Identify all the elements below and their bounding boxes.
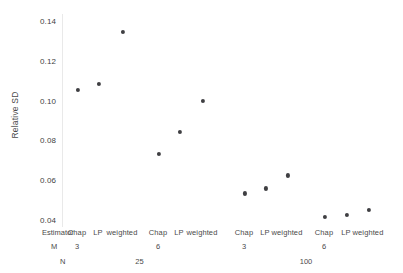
y-axis-tick-0-14: 0.14: [26, 17, 60, 26]
x-axis-estimator-label: Chap: [68, 228, 86, 237]
data-point: [76, 88, 80, 92]
x-axis-estimator-label: weighted: [272, 228, 303, 237]
x-axis-estimator-label: LP: [174, 228, 183, 237]
data-point: [323, 215, 327, 219]
data-point: [286, 173, 290, 177]
y-axis-title: Relative SD: [4, 0, 26, 230]
x-axis-n-label: 100: [300, 257, 313, 266]
x-axis-row-estimator: Estimator ChapLPweightedChapLPweightedCh…: [0, 228, 403, 241]
x-axis-estimator-label: LP: [341, 228, 350, 237]
x-axis-estimator-label: weighted: [107, 228, 138, 237]
x-axis-estimator-label: weighted: [353, 228, 384, 237]
y-axis-tick-0-06: 0.06: [26, 176, 60, 185]
y-axis-tick-0-04: 0.04: [26, 216, 60, 225]
x-axis-m-label: 3: [242, 242, 246, 251]
x-axis-m-label: 3: [75, 242, 79, 251]
plot-area: [62, 14, 399, 227]
data-point: [178, 130, 182, 134]
y-axis-tick-0-08: 0.08: [26, 136, 60, 145]
data-point: [243, 191, 247, 195]
x-axis-estimator-label: LP: [260, 228, 269, 237]
x-axis-m-label: 6: [156, 242, 160, 251]
data-point: [157, 152, 161, 156]
x-axis-estimator-label: LP: [93, 228, 102, 237]
row-key-m: M: [51, 242, 57, 251]
x-axis-estimator-label: Chap: [315, 228, 333, 237]
data-point: [97, 82, 101, 86]
x-axis-m-label: 6: [322, 242, 326, 251]
data-point: [345, 213, 349, 217]
data-point: [201, 99, 205, 103]
y-axis-tick-0-12: 0.12: [26, 56, 60, 65]
relative-sd-scatter-chart: Relative SD 0.040.060.080.100.120.14 Est…: [0, 0, 403, 273]
data-point: [367, 208, 371, 212]
data-point: [121, 29, 125, 33]
x-axis-row-m: M 3636: [0, 242, 403, 255]
x-axis-n-label: 25: [135, 257, 143, 266]
x-axis-estimator-label: Chap: [149, 228, 167, 237]
row-key-n: N: [60, 257, 65, 266]
x-axis-estimator-label: weighted: [187, 228, 218, 237]
x-axis-estimator-label: Chap: [235, 228, 253, 237]
y-axis-tick-0-10: 0.10: [26, 96, 60, 105]
data-point: [264, 186, 268, 190]
y-axis-title-label: Relative SD: [10, 91, 20, 138]
x-axis-row-n: N 25100: [0, 257, 403, 270]
x-axis-label-block: Estimator ChapLPweightedChapLPweightedCh…: [0, 228, 403, 273]
